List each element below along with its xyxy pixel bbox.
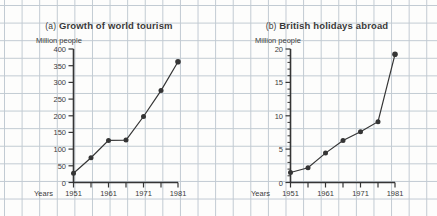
chart-a-years-label: Years <box>34 189 53 198</box>
chart-british-holidays-abroad: (b) British holidays abroad Million peop… <box>218 0 436 216</box>
chart-a-ytick-100: 100 <box>43 145 66 154</box>
chart-a-svg <box>0 0 218 216</box>
chart-b-xtick-1961: 1961 <box>317 189 334 198</box>
chart-a-ytick-350: 350 <box>43 61 66 70</box>
chart-a-xtick-1961: 1961 <box>100 189 117 198</box>
chart-a-ytick-50: 50 <box>43 161 66 170</box>
chart-a-axes <box>73 49 178 183</box>
chart-a-plot-area <box>0 0 218 216</box>
chart-b-ytick-0: 0 <box>260 178 283 187</box>
chart-b-data-points <box>288 52 398 176</box>
chart-b-data-line <box>291 54 396 172</box>
chart-b-xtick-1981: 1981 <box>387 189 404 198</box>
chart-a-xtick-1981: 1981 <box>170 189 187 198</box>
graph-paper-page: (a) Growth of world tourism Million peop… <box>0 0 437 216</box>
chart-a-data-points <box>71 59 181 176</box>
chart-a-xtick-1951: 1951 <box>65 189 82 198</box>
chart-a-ytick-0: 0 <box>43 178 66 187</box>
chart-growth-of-world-tourism: (a) Growth of world tourism Million peop… <box>0 0 218 216</box>
chart-b-ytick-20: 20 <box>260 45 283 54</box>
chart-b-svg <box>218 0 436 216</box>
chart-b-plot-area <box>218 0 436 216</box>
chart-b-xtick-1951: 1951 <box>282 189 299 198</box>
chart-a-ytick-250: 250 <box>43 95 66 104</box>
chart-b-xtick-1971: 1971 <box>352 189 369 198</box>
chart-a-ytick-300: 300 <box>43 78 66 87</box>
chart-b-years-label: Years <box>251 189 270 198</box>
chart-a-ytick-150: 150 <box>43 128 66 137</box>
chart-a-xtick-1971: 1971 <box>135 189 152 198</box>
chart-b-ytick-15: 15 <box>260 78 283 87</box>
chart-b-ytick-5: 5 <box>260 145 283 154</box>
chart-a-ytick-200: 200 <box>43 111 66 120</box>
chart-b-ytick-10: 10 <box>260 111 283 120</box>
chart-a-ytick-400: 400 <box>43 45 66 54</box>
